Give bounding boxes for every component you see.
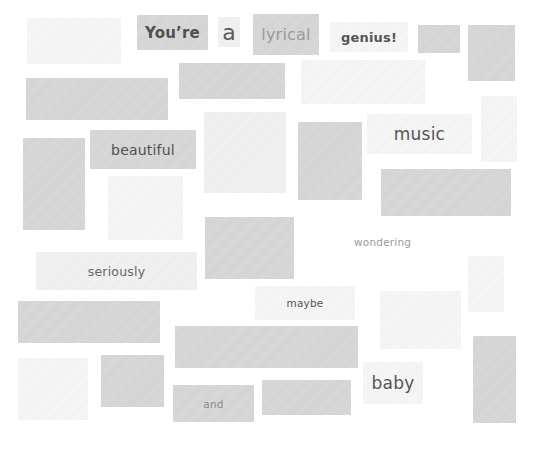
word-block-a: a [218, 17, 240, 47]
word-block-lyrical: lyrical [253, 14, 319, 55]
blank-block [23, 138, 85, 230]
word-youre: You’re [145, 24, 200, 42]
blank-block [18, 301, 160, 343]
word-block-youre: You’re [137, 15, 208, 50]
word-and: and [203, 398, 223, 410]
blank-block [205, 217, 294, 279]
word-baby: baby [372, 373, 415, 393]
blank-block [18, 358, 88, 420]
word-collage-canvas: You’re a lyrical genius! beautiful music… [0, 0, 536, 449]
blank-block [468, 256, 504, 312]
blank-block [418, 25, 460, 53]
word-lyrical: lyrical [261, 25, 310, 44]
word-block-music: music [367, 114, 472, 154]
blank-block [26, 78, 168, 120]
blank-block [381, 169, 511, 216]
word-seriously: seriously [88, 264, 146, 279]
blank-block [108, 176, 183, 240]
word-genius: genius! [341, 30, 397, 45]
blank-block [481, 96, 517, 162]
word-beautiful: beautiful [111, 142, 175, 158]
blank-block [468, 25, 515, 81]
blank-block [179, 63, 285, 99]
blank-block [175, 326, 358, 368]
word-block-genius: genius! [330, 22, 408, 52]
word-music: music [394, 124, 445, 144]
word-a: a [222, 20, 236, 45]
word-block-beautiful: beautiful [90, 130, 196, 169]
word-maybe: maybe [286, 297, 323, 309]
blank-block [27, 18, 121, 64]
blank-block [204, 112, 286, 193]
blank-block [101, 355, 164, 407]
blank-block [262, 380, 351, 415]
word-block-and: and [173, 385, 254, 422]
word-wondering: wondering [354, 236, 411, 248]
word-block-baby: baby [363, 362, 423, 404]
word-block-seriously: seriously [36, 252, 197, 290]
blank-block [473, 336, 516, 423]
word-block-maybe: maybe [255, 286, 355, 320]
blank-block [298, 122, 362, 200]
blank-block [301, 60, 425, 104]
blank-block [380, 291, 461, 349]
